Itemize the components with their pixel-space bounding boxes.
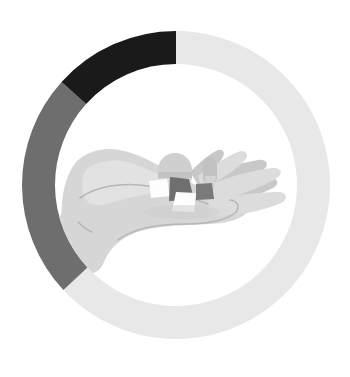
pills-shadow (144, 205, 220, 219)
figure-root: Segment 1 63 Segment 2 24 Segment 3 13 F… (0, 0, 350, 377)
pill-white-left (149, 179, 170, 198)
donut-chart-illustration (0, 0, 350, 377)
pill-dark-right (196, 183, 214, 200)
